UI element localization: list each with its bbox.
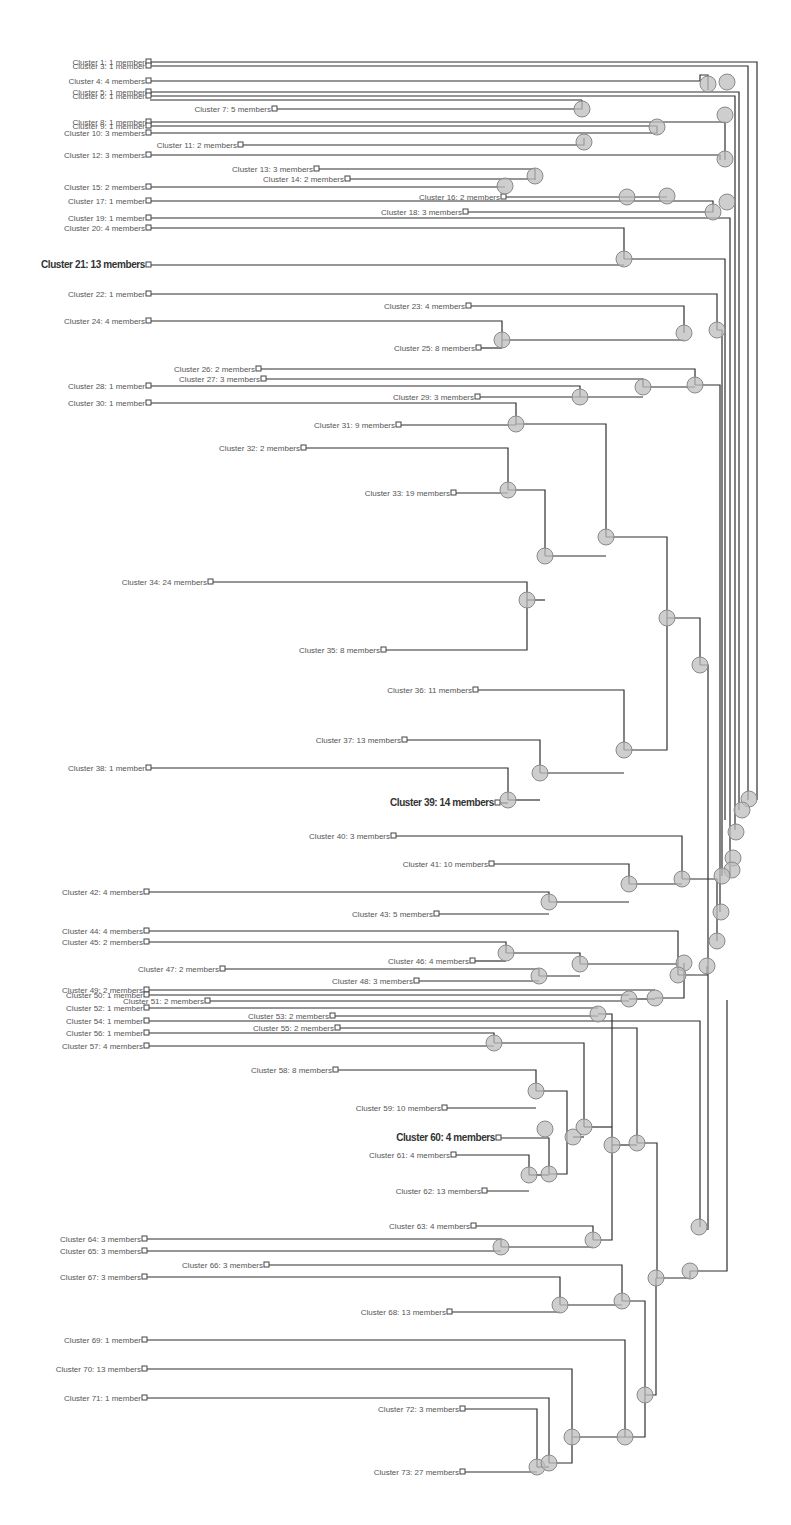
merge-node-icon[interactable] xyxy=(500,792,516,808)
leaf-square-icon[interactable] xyxy=(381,647,386,652)
merge-node-icon[interactable] xyxy=(498,945,514,961)
merge-node-icon[interactable] xyxy=(537,548,553,564)
merge-node-icon[interactable] xyxy=(635,379,651,395)
merge-node-icon[interactable] xyxy=(648,1270,664,1286)
merge-node-icon[interactable] xyxy=(700,76,716,92)
leaf-square-icon[interactable] xyxy=(146,262,151,267)
leaf-square-icon[interactable] xyxy=(144,1030,149,1035)
merge-node-icon[interactable] xyxy=(691,1219,707,1235)
leaf-square-icon[interactable] xyxy=(330,1013,335,1018)
leaf-square-icon[interactable] xyxy=(345,176,350,181)
merge-node-icon[interactable] xyxy=(674,871,690,887)
merge-node-icon[interactable] xyxy=(576,134,592,150)
leaf-square-icon[interactable] xyxy=(496,1135,501,1140)
leaf-square-icon[interactable] xyxy=(144,1043,149,1048)
leaf-square-icon[interactable] xyxy=(475,394,480,399)
merge-node-icon[interactable] xyxy=(598,529,614,545)
merge-node-icon[interactable] xyxy=(713,904,729,920)
leaf-square-icon[interactable] xyxy=(314,166,319,171)
leaf-square-icon[interactable] xyxy=(146,78,151,83)
leaf-square-icon[interactable] xyxy=(146,765,151,770)
leaf-square-icon[interactable] xyxy=(470,958,475,963)
merge-node-icon[interactable] xyxy=(519,592,535,608)
leaf-square-icon[interactable] xyxy=(460,1406,465,1411)
leaf-square-icon[interactable] xyxy=(335,1025,340,1030)
leaf-square-icon[interactable] xyxy=(146,93,151,98)
leaf-square-icon[interactable] xyxy=(414,978,419,983)
leaf-square-icon[interactable] xyxy=(264,1262,269,1267)
leaf-square-icon[interactable] xyxy=(333,1067,338,1072)
merge-node-icon[interactable] xyxy=(494,332,510,348)
merge-node-icon[interactable] xyxy=(616,742,632,758)
leaf-square-icon[interactable] xyxy=(146,215,151,220)
leaf-square-icon[interactable] xyxy=(396,422,401,427)
merge-node-icon[interactable] xyxy=(676,325,692,341)
merge-node-icon[interactable] xyxy=(572,389,588,405)
leaf-square-icon[interactable] xyxy=(146,184,151,189)
leaf-square-icon[interactable] xyxy=(501,194,506,199)
leaf-square-icon[interactable] xyxy=(142,1248,147,1253)
merge-node-icon[interactable] xyxy=(682,1263,698,1279)
merge-node-icon[interactable] xyxy=(521,1167,537,1183)
merge-node-icon[interactable] xyxy=(574,101,590,117)
leaf-square-icon[interactable] xyxy=(495,800,500,805)
merge-node-icon[interactable] xyxy=(585,1232,601,1248)
leaf-square-icon[interactable] xyxy=(261,376,266,381)
leaf-square-icon[interactable] xyxy=(482,1188,487,1193)
merge-node-icon[interactable] xyxy=(537,1121,553,1137)
merge-node-icon[interactable] xyxy=(705,204,721,220)
merge-node-icon[interactable] xyxy=(659,188,675,204)
merge-node-icon[interactable] xyxy=(493,1239,509,1255)
merge-node-icon[interactable] xyxy=(532,765,548,781)
merge-node-icon[interactable] xyxy=(692,657,708,673)
leaf-square-icon[interactable] xyxy=(473,687,478,692)
merge-node-icon[interactable] xyxy=(728,824,744,840)
merge-node-icon[interactable] xyxy=(637,1387,653,1403)
leaf-square-icon[interactable] xyxy=(146,400,151,405)
leaf-square-icon[interactable] xyxy=(460,1469,465,1474)
leaf-square-icon[interactable] xyxy=(205,998,210,1003)
leaf-square-icon[interactable] xyxy=(256,366,261,371)
merge-node-icon[interactable] xyxy=(541,1455,557,1471)
leaf-square-icon[interactable] xyxy=(146,198,151,203)
merge-node-icon[interactable] xyxy=(619,189,635,205)
merge-node-icon[interactable] xyxy=(508,416,524,432)
leaf-square-icon[interactable] xyxy=(144,1018,149,1023)
leaf-square-icon[interactable] xyxy=(142,1395,147,1400)
merge-node-icon[interactable] xyxy=(564,1429,580,1445)
leaf-square-icon[interactable] xyxy=(146,152,151,157)
merge-node-icon[interactable] xyxy=(528,1083,544,1099)
leaf-square-icon[interactable] xyxy=(146,63,151,68)
leaf-square-icon[interactable] xyxy=(146,130,151,135)
merge-node-icon[interactable] xyxy=(687,377,703,393)
leaf-square-icon[interactable] xyxy=(142,1236,147,1241)
leaf-square-icon[interactable] xyxy=(142,1366,147,1371)
merge-node-icon[interactable] xyxy=(614,1293,630,1309)
leaf-square-icon[interactable] xyxy=(208,579,213,584)
leaf-square-icon[interactable] xyxy=(220,966,225,971)
leaf-square-icon[interactable] xyxy=(489,861,494,866)
leaf-square-icon[interactable] xyxy=(451,490,456,495)
leaf-square-icon[interactable] xyxy=(144,939,149,944)
merge-node-icon[interactable] xyxy=(709,322,725,338)
leaf-square-icon[interactable] xyxy=(146,291,151,296)
merge-node-icon[interactable] xyxy=(670,967,686,983)
merge-node-icon[interactable] xyxy=(541,1166,557,1182)
merge-node-icon[interactable] xyxy=(719,194,735,210)
leaf-square-icon[interactable] xyxy=(442,1105,447,1110)
leaf-square-icon[interactable] xyxy=(142,1337,147,1342)
merge-node-icon[interactable] xyxy=(531,968,547,984)
merge-node-icon[interactable] xyxy=(497,178,513,194)
merge-node-icon[interactable] xyxy=(709,933,725,949)
leaf-square-icon[interactable] xyxy=(144,987,149,992)
merge-node-icon[interactable] xyxy=(717,151,733,167)
leaf-square-icon[interactable] xyxy=(471,1223,476,1228)
merge-node-icon[interactable] xyxy=(527,168,543,184)
merge-node-icon[interactable] xyxy=(649,119,665,135)
leaf-square-icon[interactable] xyxy=(142,1274,147,1279)
merge-node-icon[interactable] xyxy=(647,990,663,1006)
merge-node-icon[interactable] xyxy=(699,958,715,974)
merge-node-icon[interactable] xyxy=(734,802,750,818)
leaf-square-icon[interactable] xyxy=(402,737,407,742)
merge-node-icon[interactable] xyxy=(719,74,735,90)
